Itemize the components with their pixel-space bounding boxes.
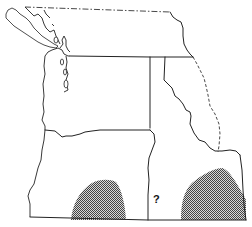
washington-north-border: [70, 56, 193, 57]
island-small: [64, 80, 68, 88]
oregon-washington-border: [45, 130, 150, 137]
island-small: [64, 69, 67, 75]
idaho-montana-border: [164, 57, 240, 155]
unknown-occurrence-marker: ?: [153, 193, 160, 205]
pacific-coastline: [28, 56, 45, 217]
oregon-idaho-border: [148, 130, 155, 220]
range-area-east: [181, 168, 246, 220]
range-map: [0, 0, 252, 227]
island-small: [54, 37, 58, 43]
alberta-bc-boundary: [170, 12, 193, 57]
international-border: [25, 7, 170, 12]
island-small: [60, 59, 63, 65]
range-area-west: [71, 180, 126, 220]
